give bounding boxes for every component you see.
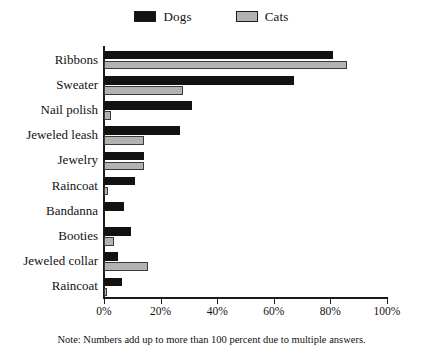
bar-cats: [104, 262, 148, 271]
bar-cats: [104, 136, 144, 145]
x-axis-tick-label: 0%: [96, 306, 111, 318]
bar-chart: Dogs Cats RibbonsSweaterNail polishJewel…: [0, 0, 423, 362]
chart-footnote: Note: Numbers add up to more than 100 pe…: [0, 334, 423, 346]
legend-swatch-cats: [236, 11, 258, 22]
legend-label-cats: Cats: [265, 10, 289, 23]
x-axis-tick: [274, 298, 275, 304]
x-axis-tick: [161, 298, 162, 304]
bar-cats: [104, 61, 347, 70]
x-axis-tick: [387, 298, 388, 304]
bar-group: [104, 248, 387, 273]
x-axis-tick-label: 80%: [320, 306, 341, 318]
bar-group: [104, 197, 387, 222]
bar-group: [104, 273, 387, 298]
bar-dogs: [104, 51, 333, 60]
bar-cats: [104, 111, 111, 120]
y-axis-category-labels: RibbonsSweaterNail polishJeweled leashJe…: [0, 46, 98, 298]
category-label: Raincoat: [0, 178, 98, 191]
bar-dogs: [104, 101, 192, 110]
legend-entry-cats: Cats: [236, 10, 289, 23]
legend-label-dogs: Dogs: [163, 10, 191, 23]
chart-legend: Dogs Cats: [0, 10, 423, 23]
bar-cats: [104, 288, 107, 297]
bar-dogs: [104, 76, 294, 85]
category-label: Raincoat: [0, 279, 98, 292]
bar-group: [104, 222, 387, 247]
category-label: Booties: [0, 229, 98, 242]
category-label: Jeweled collar: [0, 254, 98, 267]
bar-group: [104, 71, 387, 96]
bar-dogs: [104, 252, 118, 261]
bar-group: [104, 172, 387, 197]
bar-dogs: [104, 152, 144, 161]
plot-area: [104, 46, 387, 298]
bar-dogs: [104, 126, 180, 135]
bar-dogs: [104, 202, 124, 211]
bar-group: [104, 46, 387, 71]
bar-cats: [104, 162, 144, 171]
category-label: Ribbons: [0, 52, 98, 65]
x-axis-tick: [104, 298, 105, 304]
legend-entry-dogs: Dogs: [134, 10, 191, 23]
bar-group: [104, 147, 387, 172]
x-axis-tick-label: 100%: [374, 306, 401, 318]
bar-dogs: [104, 227, 131, 236]
x-axis-tick-label: 20%: [150, 306, 171, 318]
bar-dogs: [104, 177, 135, 186]
bar-group: [104, 122, 387, 147]
x-axis-tick: [217, 298, 218, 304]
bar-cats: [104, 237, 114, 246]
category-label: Jewelry: [0, 153, 98, 166]
bar-cats: [104, 86, 183, 95]
category-label: Jeweled leash: [0, 128, 98, 141]
category-label: Bandanna: [0, 203, 98, 216]
x-axis-tick-label: 60%: [263, 306, 284, 318]
category-label: Nail polish: [0, 103, 98, 116]
bar-cats: [104, 187, 108, 196]
bar-dogs: [104, 278, 122, 287]
category-label: Sweater: [0, 77, 98, 90]
bar-group: [104, 96, 387, 121]
x-axis-tick-label: 40%: [207, 306, 228, 318]
legend-swatch-dogs: [134, 11, 156, 22]
x-axis-tick: [330, 298, 331, 304]
